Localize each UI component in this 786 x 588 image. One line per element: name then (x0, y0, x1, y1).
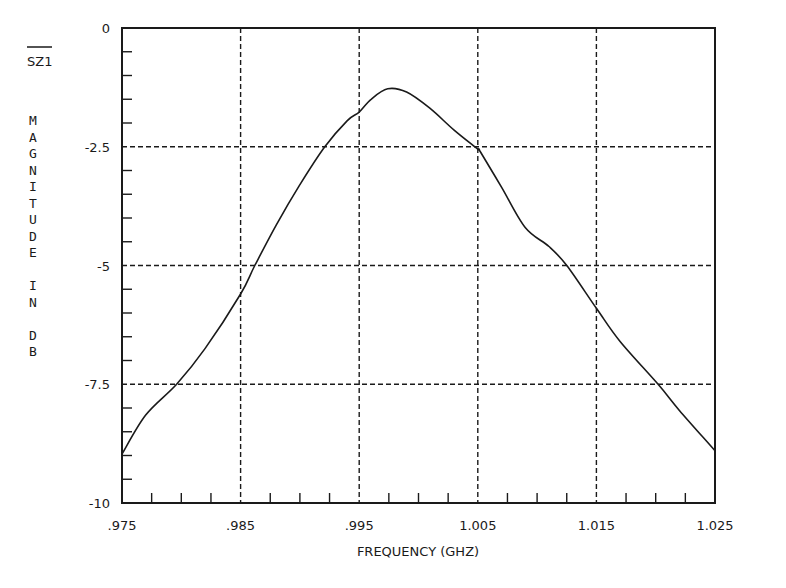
y-axis-title-char: T (29, 196, 37, 211)
y-axis-title: MAGNITUDEINDB (29, 113, 37, 359)
y-axis-title-char: I (29, 278, 37, 293)
y-axis-title-char: D (29, 328, 37, 343)
y-axis-title-char: N (29, 163, 37, 178)
y-axis-title-char: I (29, 179, 37, 194)
x-tick-label: .975 (108, 518, 137, 533)
y-tick-labels: 0-2.5-5-7.5-10 (85, 21, 110, 511)
y-axis-title-char: N (29, 295, 37, 310)
x-tick-label: 1.015 (578, 518, 615, 533)
y-axis-title-char: D (29, 229, 37, 244)
axis-ticks (122, 52, 685, 503)
y-tick-label: 0 (102, 21, 110, 36)
y-tick-label: -5 (97, 259, 110, 274)
y-axis-title-char: M (29, 113, 37, 128)
y-axis-title-char: U (29, 212, 37, 227)
x-tick-label: .995 (345, 518, 374, 533)
y-axis-title-char: E (29, 245, 37, 260)
x-axis-title: FREQUENCY (GHZ) (357, 544, 479, 559)
y-tick-label: -2.5 (85, 140, 110, 155)
y-axis-title-char: B (29, 344, 37, 359)
x-tick-label: .985 (226, 518, 255, 533)
y-tick-label: -10 (89, 496, 110, 511)
x-tick-label: 1.025 (696, 518, 733, 533)
x-tick-label: 1.005 (459, 518, 496, 533)
s21-magnitude-curve (122, 88, 715, 454)
chart: 0-2.5-5-7.5-10 .975.985.9951.0051.0151.0… (0, 0, 786, 588)
series-label: SZ1 (27, 54, 52, 69)
y-tick-label: -7.5 (85, 377, 110, 392)
y-axis-title-char: G (29, 146, 37, 161)
x-tick-labels: .975.985.9951.0051.0151.025 (108, 518, 734, 533)
y-axis-title-char: A (29, 130, 37, 145)
